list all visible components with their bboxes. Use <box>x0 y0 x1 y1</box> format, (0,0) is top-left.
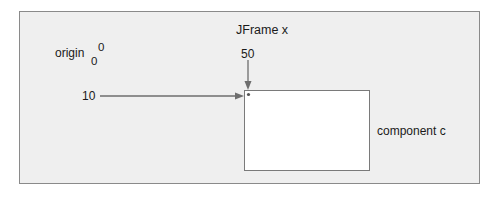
x-offset-label: 50 <box>241 48 254 60</box>
origin-label: origin <box>55 47 84 59</box>
component-label: component c <box>377 125 446 137</box>
y-offset-label: 10 <box>82 90 95 102</box>
component-c-box <box>244 90 370 171</box>
jframe-title: JFrame x <box>236 24 288 37</box>
origin-y-value: 0 <box>91 56 97 68</box>
origin-x-value: 0 <box>98 42 104 54</box>
